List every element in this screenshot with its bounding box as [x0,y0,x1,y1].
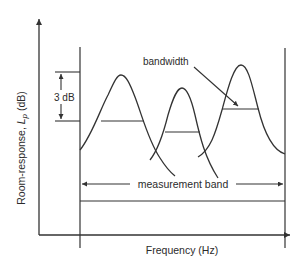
y-axis-label-text: Room-response, [15,124,27,205]
peak-3-curve [198,65,285,157]
measurement-band-label: measurement band [138,178,229,190]
peak-1-curve [80,75,175,176]
room-response-diagram: 3 dB bandwidth measurement band Frequenc… [0,0,307,268]
x-axis-label: Frequency (Hz) [146,244,218,256]
y-axis-unit: (dB) [15,91,27,114]
3db-label: 3 dB [54,92,75,103]
y-axis-label: Room-response, Lp (dB) [15,91,29,205]
bandwidth-label: bandwidth [143,56,189,67]
bandwidth-pointer-arrow [194,67,238,106]
peak-2-curve [150,88,218,178]
